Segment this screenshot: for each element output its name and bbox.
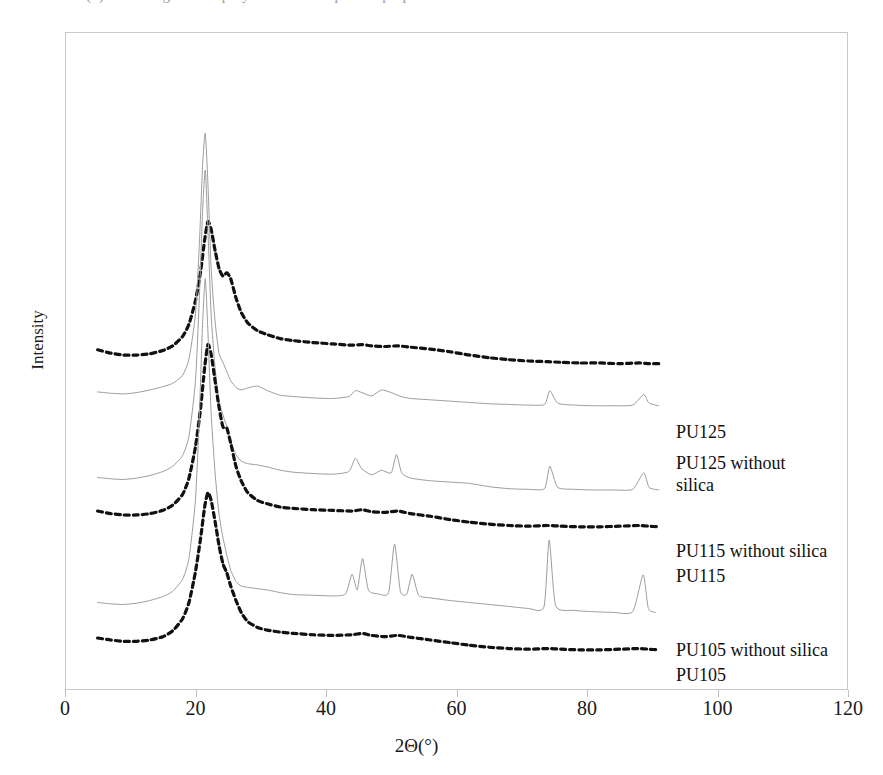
curve-pu105 xyxy=(98,493,659,650)
curve-pu105-without-silica xyxy=(98,279,656,614)
curve-label-pu115_ws: PU115 without silica xyxy=(676,540,827,562)
x-axis-title: 2Θ(°) xyxy=(0,735,883,757)
x-tick-mark xyxy=(718,690,719,697)
x-tick-label: 120 xyxy=(818,697,878,720)
curve-pu115-without-silica xyxy=(98,170,659,490)
x-axis-title-text: 2Θ(°) xyxy=(395,735,438,756)
x-tick-label: 60 xyxy=(427,697,487,720)
x-tick-label: 40 xyxy=(296,697,356,720)
x-tick-mark xyxy=(326,690,327,697)
x-tick-label: 80 xyxy=(557,697,617,720)
curve-label-pu105_ws: PU105 without silica xyxy=(676,639,828,661)
xrd-figure: (b) diffractograms of polyurethane compo… xyxy=(0,0,883,775)
clipped-caption-line: (b) diffractograms of polyurethane compo… xyxy=(0,0,883,13)
curve-label-pu125_ws: PU125 without silica xyxy=(676,452,806,496)
x-tick-mark xyxy=(587,690,588,697)
x-tick-label: 0 xyxy=(35,697,95,720)
x-tick-label: 20 xyxy=(166,697,226,720)
y-axis-title: Intensity xyxy=(28,280,48,400)
curve-pu125 xyxy=(98,221,659,363)
x-tick-mark xyxy=(196,690,197,697)
curve-label-pu105: PU105 xyxy=(676,664,726,686)
plot-canvas xyxy=(65,32,848,690)
x-tick-mark xyxy=(457,690,458,697)
curve-label-pu115: PU115 xyxy=(676,565,725,587)
clipped-caption-text: (b) diffractograms of polyurethane compo… xyxy=(86,0,507,4)
curve-pu125-without-silica xyxy=(98,133,659,406)
curve-pu115 xyxy=(98,344,659,526)
x-tick-label: 100 xyxy=(688,697,748,720)
x-tick-mark xyxy=(848,690,849,697)
curve-label-pu125: PU125 xyxy=(676,421,726,443)
x-tick-mark xyxy=(65,690,66,697)
